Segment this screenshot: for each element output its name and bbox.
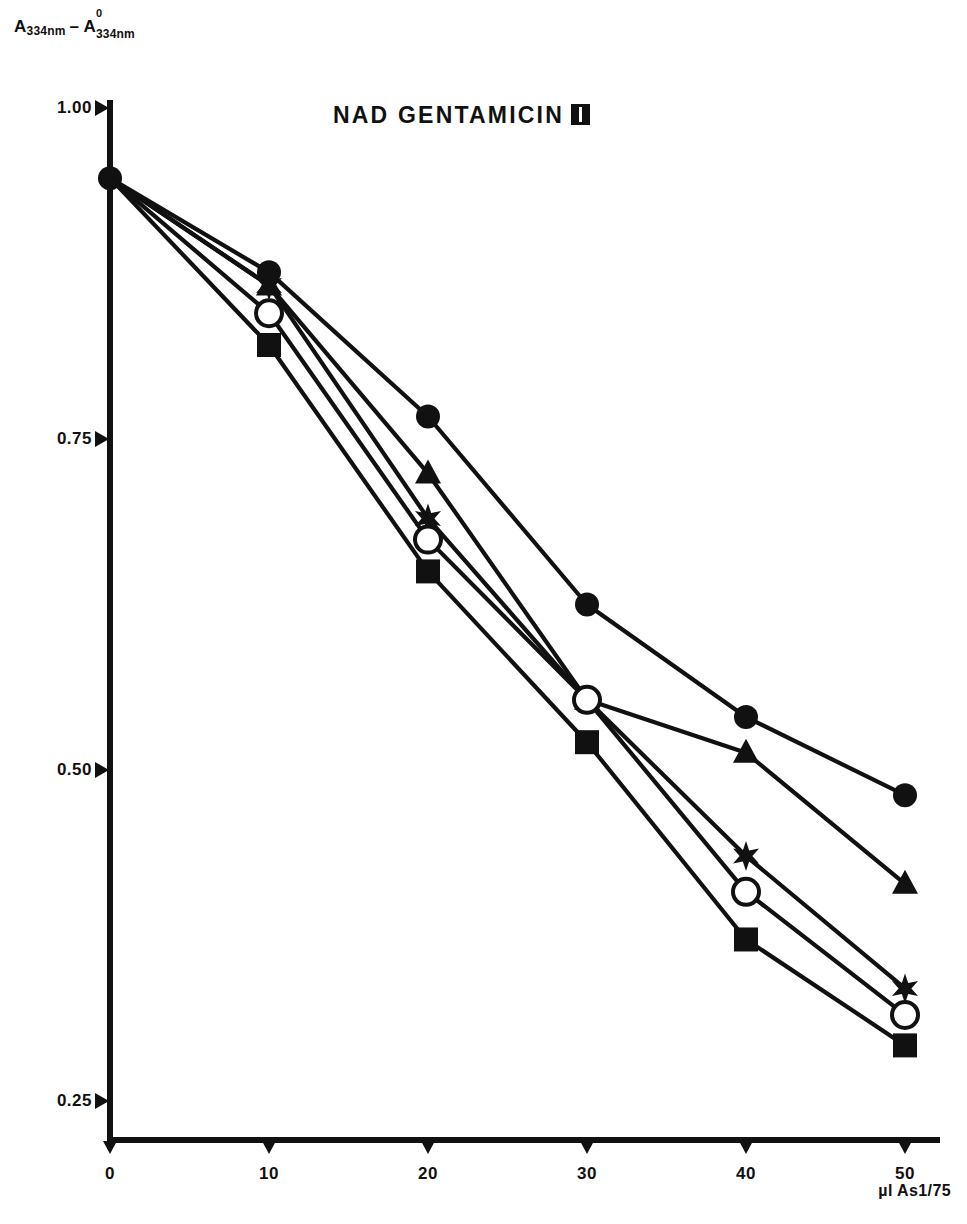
x-axis-label: µl As1/75 (878, 1183, 951, 1199)
data-series-group (98, 166, 918, 1057)
filled-square-marker (734, 927, 758, 951)
open-circle-marker (733, 879, 759, 905)
series-filled-circle (98, 166, 917, 807)
open-circle-marker (415, 527, 441, 553)
x-tick-label: 10 (229, 1165, 309, 1182)
y-axis-tick (95, 431, 109, 447)
filled-square-marker (893, 1033, 917, 1057)
x-axis-tick (580, 1141, 594, 1154)
open-circle-marker (256, 300, 282, 326)
y-tick-label: 0.75 (12, 430, 92, 447)
x-axis-tick (103, 1141, 117, 1154)
y-tick-label: 0.50 (12, 761, 92, 778)
x-axis-tick (739, 1141, 753, 1154)
x-tick-label: 0 (70, 1165, 150, 1182)
plot-area (0, 0, 967, 1224)
series-line (110, 178, 905, 884)
y-axis-tick (95, 762, 109, 778)
filled-square-marker (416, 559, 440, 583)
x-tick-label: 30 (547, 1165, 627, 1182)
filled-star-marker (892, 973, 918, 1003)
filled-circle-marker (734, 705, 758, 729)
open-circle-marker (574, 687, 600, 713)
filled-square-marker (257, 333, 281, 357)
x-tick-label: 20 (388, 1165, 468, 1182)
x-axis-tick (898, 1141, 912, 1154)
y-axis-tick (95, 100, 109, 116)
filled-square-marker (575, 730, 599, 754)
filled-circle-marker (575, 593, 599, 617)
filled-circle-marker (416, 404, 440, 428)
y-axis-tick (95, 1093, 109, 1109)
series-line (110, 178, 905, 795)
filled-circle-marker (893, 783, 917, 807)
series-filled-star (110, 178, 918, 1003)
x-tick-label: 50 (865, 1165, 945, 1182)
x-axis-tick (421, 1141, 435, 1154)
y-tick-label: 0.25 (12, 1092, 92, 1109)
series-filled-triangle (110, 178, 918, 894)
x-axis-tick (262, 1141, 276, 1154)
y-tick-label: 1.00 (12, 99, 92, 116)
open-circle-marker (892, 1002, 918, 1028)
filled-triangle-marker (892, 870, 918, 894)
x-tick-label: 40 (706, 1165, 786, 1182)
